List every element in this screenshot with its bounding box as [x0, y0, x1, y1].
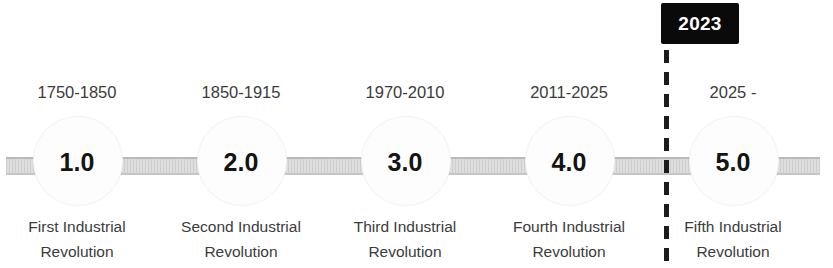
node-number-3: 3.0 [330, 150, 480, 175]
node-period-3: 1970-2010 [330, 84, 480, 101]
node-title-line2-4: Revolution [486, 239, 652, 264]
node-title-line1-5: Fifth Industrial [650, 214, 816, 239]
node-title-3: Third Industrial Revolution [322, 214, 488, 264]
node-period-2: 1850-1915 [166, 84, 316, 101]
timeline-node-1[interactable]: 1750-1850 1.0 First Industrial Revolutio… [2, 0, 152, 268]
node-title-line2-5: Revolution [650, 239, 816, 264]
node-number-5: 5.0 [658, 150, 808, 175]
present-marker-year-label: 2023 [678, 14, 721, 33]
timeline-node-3[interactable]: 1970-2010 3.0 Third Industrial Revolutio… [330, 0, 480, 268]
node-title-line1-2: Second Industrial [158, 214, 324, 239]
node-number-1: 1.0 [2, 150, 152, 175]
node-title-1: First Industrial Revolution [0, 214, 160, 264]
node-title-line2-1: Revolution [0, 239, 160, 264]
node-title-2: Second Industrial Revolution [158, 214, 324, 264]
timeline-diagram: 1750-1850 1.0 First Industrial Revolutio… [0, 0, 833, 268]
node-title-line2-3: Revolution [322, 239, 488, 264]
node-title-4: Fourth Industrial Revolution [486, 214, 652, 264]
timeline-node-4[interactable]: 2011-2025 4.0 Fourth Industrial Revoluti… [494, 0, 644, 268]
node-title-line1-3: Third Industrial [322, 214, 488, 239]
node-number-4: 4.0 [494, 150, 644, 175]
node-title-line1-4: Fourth Industrial [486, 214, 652, 239]
present-marker-badge: 2023 [661, 3, 739, 44]
node-period-4: 2011-2025 [494, 84, 644, 101]
node-period-1: 1750-1850 [2, 84, 152, 101]
node-title-line2-2: Revolution [158, 239, 324, 264]
node-title-5: Fifth Industrial Revolution [650, 214, 816, 264]
node-number-2: 2.0 [166, 150, 316, 175]
present-marker-dashed-line [664, 50, 669, 264]
timeline-node-2[interactable]: 1850-1915 2.0 Second Industrial Revoluti… [166, 0, 316, 268]
node-period-5: 2025 - [658, 84, 808, 101]
node-title-line1-1: First Industrial [0, 214, 160, 239]
